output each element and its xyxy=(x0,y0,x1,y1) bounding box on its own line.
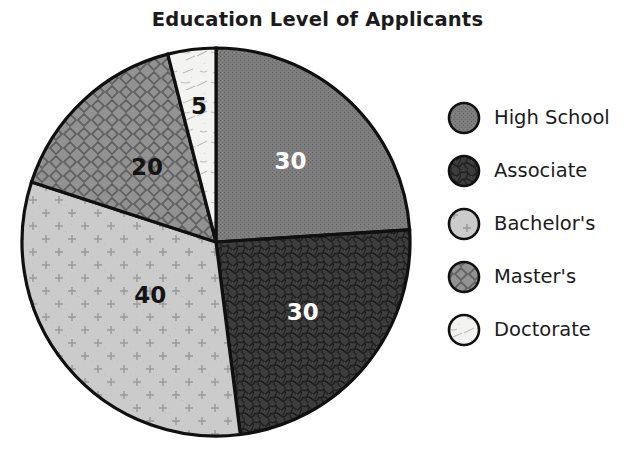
pie-slice-associate[interactable] xyxy=(216,230,410,435)
pie-chart-figure: Education Level of Applicants xyxy=(0,0,635,454)
pie-slice-label-associate: 30 xyxy=(287,299,319,325)
pie-slices-group xyxy=(22,48,410,436)
legend-item-bachelors[interactable]: Bachelor's xyxy=(443,204,635,244)
pie-slice-label-bachelors: 40 xyxy=(134,282,166,308)
legend-label-doctorate: Doctorate xyxy=(494,320,591,340)
legend-item-high-school[interactable]: High School xyxy=(443,98,635,138)
legend-label-masters: Master's xyxy=(494,267,576,287)
pie-slice-label-masters: 20 xyxy=(131,154,163,180)
pie-slice-high-school[interactable] xyxy=(216,48,410,242)
circle-swatch-sparse-crosses-icon xyxy=(447,207,481,241)
legend-label-bachelors: Bachelor's xyxy=(494,214,595,234)
legend-label-associate: Associate xyxy=(494,161,587,181)
circle-swatch-diagonal-crosshatch-icon xyxy=(447,260,481,294)
circle-swatch-mottled-squiggle-icon xyxy=(447,154,481,188)
legend-label-high-school: High School xyxy=(494,108,610,128)
legend-item-masters[interactable]: Master's xyxy=(443,257,635,297)
circle-swatch-faint-scratches-icon xyxy=(447,313,481,347)
circle-swatch-dense-stipple-icon xyxy=(447,101,481,135)
pie-chart-plot-area: 30 30 40 20 5 xyxy=(0,36,440,454)
pie-slice-label-high-school: 30 xyxy=(274,148,306,174)
legend-item-doctorate[interactable]: Doctorate xyxy=(443,310,635,350)
legend-item-associate[interactable]: Associate xyxy=(443,151,635,191)
pie-chart-svg: 30 30 40 20 5 xyxy=(0,36,440,454)
legend: High School Associate Bachelor's Master'… xyxy=(443,98,635,378)
pie-slice-label-doctorate: 5 xyxy=(191,93,207,119)
page-title: Education Level of Applicants xyxy=(0,8,635,31)
